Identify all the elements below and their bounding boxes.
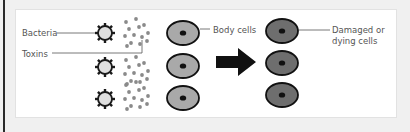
body-cell-icon [167, 54, 199, 78]
toxin-dot [134, 17, 138, 21]
toxin-dot [134, 55, 138, 59]
toxin-dot [123, 34, 127, 38]
damaged-cells-label-line2: dying cells [332, 36, 378, 46]
toxin-cluster [123, 17, 150, 48]
cell-nucleus [279, 60, 285, 65]
toxin-dot [142, 61, 146, 65]
body-cell-icon [167, 21, 199, 45]
bacterium-body [98, 60, 112, 74]
toxin-dot [145, 39, 149, 43]
toxin-dot [146, 94, 150, 98]
toxin-dot [127, 65, 131, 69]
toxin-dot [140, 73, 144, 77]
toxin-dot [137, 88, 141, 92]
toxin-dot [124, 83, 128, 87]
body-cell-icon [167, 86, 199, 110]
toxin-dot [123, 72, 127, 76]
cell-nucleus [279, 92, 285, 97]
damaged-cell-icon [266, 83, 298, 107]
toxin-dot [140, 35, 144, 39]
toxin-dot [138, 80, 142, 84]
cell-nucleus [180, 63, 186, 68]
bacterium-icon [95, 57, 115, 77]
toxin-dot [125, 107, 129, 111]
toxin-dot [140, 98, 144, 102]
toxin-dot [137, 63, 141, 67]
toxin-dot [127, 27, 131, 31]
bacterium-icon [95, 89, 115, 109]
toxin-dot [125, 44, 129, 48]
bacterium-body [98, 92, 112, 106]
toxin-dot [137, 25, 141, 29]
bacterium-body [98, 26, 112, 40]
toxin-dot [142, 23, 146, 27]
toxin-dot [132, 96, 136, 100]
damaged-cells-label-line1: Damaged or [332, 25, 385, 35]
toxin-dot [146, 69, 150, 73]
cell-nucleus [180, 30, 186, 35]
toxin-dot [124, 58, 128, 62]
toxin-dot [132, 33, 136, 37]
bacteria-label: Bacteria [22, 28, 57, 38]
body-cells-label: Body cells [213, 25, 257, 35]
cell-nucleus [279, 28, 285, 33]
toxin-dot [124, 20, 128, 24]
cell-nucleus [180, 95, 186, 100]
damaged-cell-icon [266, 51, 298, 75]
bacterium-icon [95, 23, 115, 43]
arrow-right-icon [216, 48, 256, 76]
toxin-dot [129, 79, 133, 83]
toxin-dot [127, 90, 131, 94]
toxins-label: Toxins [21, 49, 48, 59]
toxin-cluster [123, 80, 150, 111]
toxin-dot [138, 42, 142, 46]
toxin-dot [129, 104, 133, 108]
toxin-dot [138, 105, 142, 109]
toxin-dot [132, 71, 136, 75]
toxin-dot [142, 86, 146, 90]
toxin-dot [123, 97, 127, 101]
toxin-dot [145, 77, 149, 81]
toxin-dot [129, 41, 133, 45]
damaged-cell-icon [266, 19, 298, 43]
toxin-dot [145, 102, 149, 106]
toxin-dot [134, 80, 138, 84]
toxin-diagram: Bacteria Toxins Body cells Damaged or dy… [0, 0, 410, 132]
toxin-dot [146, 31, 150, 35]
